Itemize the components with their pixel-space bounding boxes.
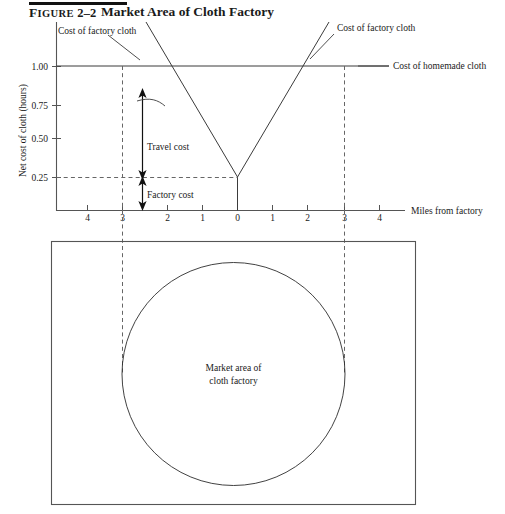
market-area-label-line2: cloth factory (209, 376, 258, 386)
cost-chart: 1.00 0.75 0.50 0.25 Net cost of cloth (h… (18, 22, 486, 374)
x-axis-title: Miles from factory (411, 206, 483, 216)
x-tick-label-origin: 0 (235, 213, 240, 223)
left-factory-cloth-label: Cost of factory cloth (58, 26, 137, 36)
x-tick-label-left-1: 1 (200, 213, 205, 223)
x-tick-marks (88, 205, 380, 211)
market-area-map: Market area of cloth factory (52, 242, 416, 505)
right-factory-label-leader (310, 34, 334, 59)
market-area-label-line1: Market area of (206, 363, 263, 373)
y-tick-label-3: 0.50 (31, 134, 48, 144)
left-factory-label-leader (108, 35, 140, 60)
travel-cost-leader (137, 99, 165, 106)
travel-cost-label: Travel cost (147, 142, 189, 152)
homemade-cloth-label: Cost of homemade cloth (393, 61, 486, 71)
right-factory-cloth-label: Cost of factory cloth (337, 23, 416, 33)
y-axis-title: Net cost of cloth (hours) (18, 84, 29, 177)
travel-cost-arrow (138, 88, 146, 180)
factory-cost-arrow (138, 176, 146, 211)
factory-cost-line (146, 22, 329, 177)
market-area-circle (122, 263, 345, 486)
x-tick-label-right-2: 2 (305, 213, 310, 223)
factory-cost-label: Factory cost (147, 190, 194, 200)
x-tick-label-left-4: 4 (85, 213, 90, 223)
x-tick-label-right-4: 4 (377, 213, 382, 223)
map-panel-box (52, 242, 416, 505)
y-tick-label-1: 1.00 (31, 62, 48, 72)
x-tick-label-right-1: 1 (270, 213, 275, 223)
figure-canvas: 1.00 0.75 0.50 0.25 Net cost of cloth (h… (0, 0, 505, 514)
y-tick-label-4: 0.25 (31, 173, 48, 183)
y-tick-label-2: 0.75 (31, 101, 48, 111)
x-tick-label-left-2: 2 (165, 213, 170, 223)
